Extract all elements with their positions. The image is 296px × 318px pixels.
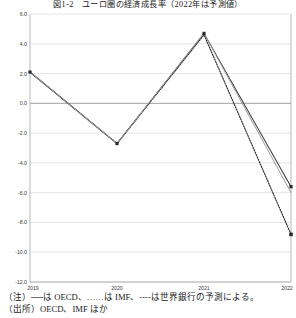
x-tick-label: 2022: [281, 285, 293, 290]
y-tick-label: 6.0: [20, 12, 27, 17]
gridlines-group: [30, 14, 291, 282]
data-series-group: [30, 33, 291, 234]
x-tick-label: 2019: [27, 285, 39, 290]
data-point-marker: [28, 70, 31, 73]
y-tick-label: 2.0: [20, 71, 27, 77]
y-tick-label: -8.0: [18, 219, 27, 225]
y-tick-label: 4.0: [20, 41, 27, 47]
y-tick-label: -10.0: [15, 249, 27, 255]
y-tick-label: -2.0: [18, 130, 27, 136]
y-tick-label: -4.0: [18, 160, 27, 166]
data-point-marker: [289, 185, 292, 188]
y-axis-tick-labels: 6.04.02.00.0-2.0-4.0-6.0-8.0-10.0-12.0: [15, 12, 27, 285]
x-tick-label: 2021: [198, 285, 210, 290]
chart-notes: （注）──は OECD、……は IMF、----は世界銀行の予測による。 （出所…: [4, 292, 296, 314]
y-tick-label: -6.0: [18, 190, 27, 196]
data-point-markers: [28, 32, 292, 236]
data-point-marker: [115, 142, 118, 145]
chart-page: 図1-2 ユーロ圏の経済成長率（2022年は予測値） 6.04.02.00.0-…: [0, 0, 296, 318]
y-tick-label: -12.0: [15, 279, 27, 285]
x-tick-label: 2020: [111, 285, 123, 290]
data-point-marker: [289, 233, 293, 237]
series-line-IMF: [30, 35, 291, 235]
page-title: 図1-2 ユーロ圏の経済成長率（2022年は予測値）: [0, 0, 296, 9]
series-line-OECD: [30, 33, 291, 186]
source-line: （出所）OECD、IMF ほか: [4, 304, 296, 315]
note-line: （注）──は OECD、……は IMF、----は世界銀行の予測による。: [4, 292, 296, 303]
series-line-世界銀行: [30, 33, 291, 192]
line-chart-svg: 6.04.02.00.0-2.0-4.0-6.0-8.0-10.0-12.0 2…: [0, 12, 296, 290]
x-axis-tick-labels: 2019202020212022: [27, 285, 293, 290]
chart-plot-area: 6.04.02.00.0-2.0-4.0-6.0-8.0-10.0-12.0 2…: [0, 12, 296, 290]
data-point-marker: [202, 32, 205, 35]
y-tick-label: 0.0: [20, 100, 27, 106]
